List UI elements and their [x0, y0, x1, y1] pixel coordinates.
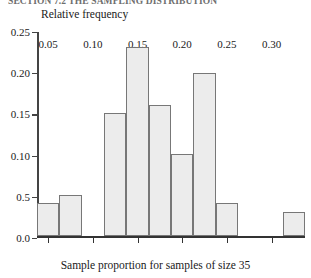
x-axis-line — [37, 236, 305, 238]
y-tick-mark — [32, 32, 37, 33]
x-tick-mark — [138, 238, 139, 243]
y-tick-mark — [32, 197, 37, 198]
x-tick-label: 0.25 — [217, 39, 236, 50]
histogram-bar — [283, 212, 305, 237]
histogram-bar — [149, 105, 171, 237]
histogram-bar — [193, 73, 215, 236]
y-tick-label: 0.0 — [16, 233, 30, 244]
y-tick-label: 0.15 — [11, 109, 30, 120]
x-tick-mark — [272, 238, 273, 243]
x-tick-label: 0.30 — [262, 39, 281, 50]
histogram-bar — [104, 113, 126, 237]
x-axis-title: Sample proportion for samples of size 35 — [0, 259, 311, 271]
x-tick-label: 0.10 — [83, 39, 102, 50]
y-tick-mark — [32, 114, 37, 115]
x-tick-mark — [227, 238, 228, 243]
y-tick-label: 0.10 — [11, 150, 30, 161]
histogram-plot-area: 0.250.200.150.100.50.0 0.050.100.150.200… — [37, 32, 305, 238]
y-tick-label: 0.25 — [11, 27, 30, 38]
histogram-bar — [37, 203, 59, 236]
y-axis-title: Relative frequency — [41, 8, 128, 20]
y-tick-mark — [32, 73, 37, 74]
y-tick-mark — [32, 238, 37, 239]
x-tick-mark — [182, 238, 183, 243]
x-tick-mark — [93, 238, 94, 243]
cropped-page-header: SECTION 7.2 THE SAMPLING DISTRIBUTION — [8, 0, 238, 4]
histogram-bar — [59, 195, 81, 236]
histogram-bar — [216, 203, 238, 236]
y-tick-label: 0.5 — [16, 191, 30, 202]
histogram-bar — [126, 47, 148, 237]
y-tick-mark — [32, 156, 37, 157]
histogram-bar — [171, 154, 193, 236]
y-tick-label: 0.20 — [11, 68, 30, 79]
x-tick-label: 0.20 — [173, 39, 192, 50]
x-tick-mark — [48, 238, 49, 243]
x-tick-label: 0.05 — [39, 39, 58, 50]
